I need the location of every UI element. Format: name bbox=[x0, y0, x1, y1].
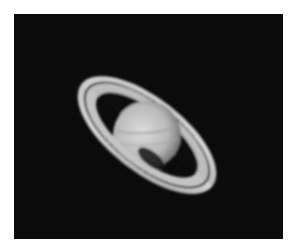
photo-frame bbox=[14, 14, 283, 239]
saturn bbox=[52, 46, 242, 223]
saturn-image bbox=[14, 14, 283, 239]
